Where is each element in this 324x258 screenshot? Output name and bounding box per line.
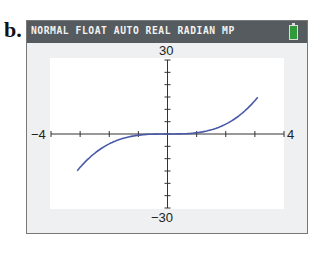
x-max-label: 4	[287, 127, 294, 142]
y-min-label: −30	[151, 210, 173, 225]
graph-plot: −4 4 30 −30	[0, 0, 324, 258]
x-min-label: −4	[31, 127, 46, 142]
y-max-label: 30	[159, 43, 173, 58]
